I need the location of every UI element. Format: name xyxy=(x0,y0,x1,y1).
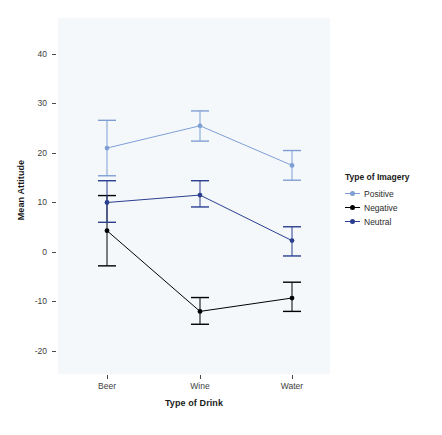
legend-marker-neutral-icon xyxy=(345,216,360,227)
legend-item-positive[interactable]: Positive xyxy=(345,187,440,200)
y-tick-label: 20 xyxy=(38,149,47,158)
y-tick-label: 30 xyxy=(38,99,47,108)
chart-figure: 40 30 20 10 0 -10 -20 Beer Wine Water Me… xyxy=(0,0,442,435)
y-axis-title: Mean Attitude xyxy=(16,145,26,235)
y-tick-label: 0 xyxy=(42,248,47,257)
legend-item-neutral[interactable]: Neutral xyxy=(345,215,440,228)
y-tick-mark xyxy=(52,351,56,352)
y-tick-label: -10 xyxy=(35,297,47,306)
y-tick-mark xyxy=(52,153,56,154)
legend-item-negative[interactable]: Negative xyxy=(345,201,440,214)
legend-marker-positive-icon xyxy=(345,188,360,199)
y-tick-mark xyxy=(52,252,56,253)
legend-marker-negative-icon xyxy=(345,202,360,213)
legend-label-neutral: Neutral xyxy=(364,217,391,227)
x-tick-label-beer: Beer xyxy=(77,382,137,391)
y-tick-label: -20 xyxy=(35,347,47,356)
x-tick-label-water: Water xyxy=(262,382,322,391)
y-tick-mark xyxy=(52,202,56,203)
x-tick-label-wine: Wine xyxy=(170,382,230,391)
legend-label-negative: Negative xyxy=(364,203,398,213)
y-tick-label: 40 xyxy=(38,50,47,59)
x-axis-title: Type of Drink xyxy=(58,398,330,408)
legend-title: Type of Imagery xyxy=(345,172,440,182)
x-tick-mark xyxy=(107,375,108,379)
legend: Type of Imagery Positive Negative Neutra… xyxy=(345,172,440,229)
y-tick-mark xyxy=(52,301,56,302)
plot-panel xyxy=(58,18,330,374)
y-tick-label: 10 xyxy=(38,198,47,207)
x-tick-mark xyxy=(292,375,293,379)
y-tick-mark xyxy=(52,54,56,55)
y-tick-mark xyxy=(52,103,56,104)
legend-label-positive: Positive xyxy=(364,189,394,199)
x-tick-mark xyxy=(200,375,201,379)
